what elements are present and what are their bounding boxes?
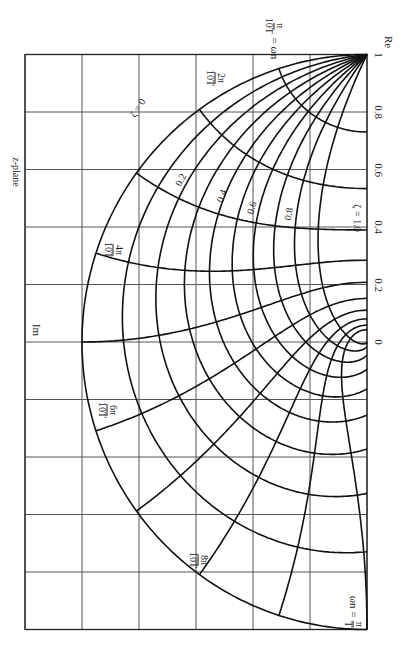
zeta-locus	[184, 55, 367, 455]
re-axis-label: Re	[383, 36, 394, 48]
im-axis-label: Im	[31, 324, 42, 336]
grid	[25, 55, 367, 630]
zeta-locus	[295, 55, 368, 352]
wn-pi-over-T-label: ωn = πT	[343, 596, 364, 629]
zeta-1.0-label: ζ = 1.0	[352, 204, 362, 231]
wn-2pi-over-10T-label: 2π10T	[205, 69, 226, 87]
wn-4pi-over-10T-label: 4π10T	[103, 241, 124, 259]
zeta-0.8-label: 0.8	[283, 207, 295, 221]
re-tick-1: 1	[373, 52, 384, 58]
wn-pi-over-10T-label: π10T = ωn	[264, 17, 285, 60]
re-tick-0.6: 0.6	[373, 163, 384, 177]
re-tick-0: 0	[373, 339, 384, 345]
re-tick-0.4: 0.4	[373, 220, 384, 234]
wn-locus	[342, 330, 368, 630]
re-tick-0.2: 0.2	[373, 278, 384, 292]
zeta-locus	[156, 55, 367, 497]
zeta-locus	[318, 55, 367, 344]
z-plane-title: z-plane	[11, 157, 21, 186]
re-tick-0.8: 0.8	[373, 105, 384, 119]
wn-locus	[200, 319, 368, 575]
wn-8pi-over-10T-label: 8π10T	[188, 551, 209, 569]
zeta-locus	[122, 55, 367, 553]
wn-6pi-over-10T-label: 6π10T	[97, 401, 118, 419]
